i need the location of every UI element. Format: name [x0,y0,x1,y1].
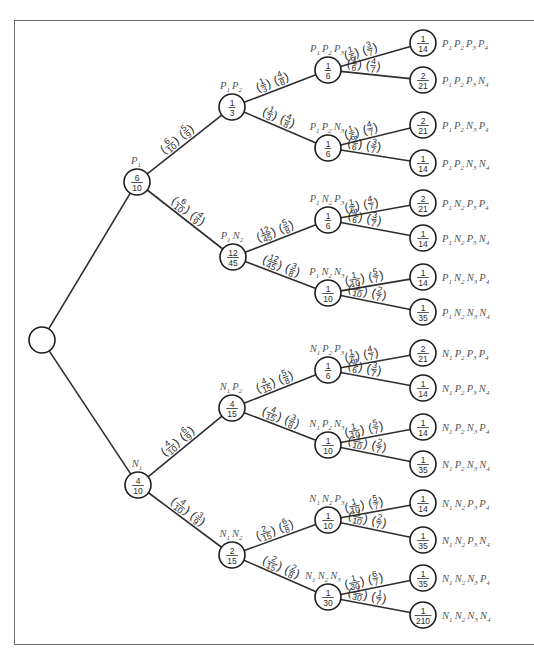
node-P1N2: 1245P1 N2 [220,230,246,270]
svg-text:): ) [378,494,384,508]
node-P1P2N3P4: 221P1 P2 N3 P4 [410,112,491,138]
svg-text:1: 1 [326,139,331,149]
node-label: P1 P2 N3 P4 [441,120,491,134]
node-label: P1 P2 N3 N4 [441,158,491,172]
svg-text:2: 2 [421,71,426,81]
svg-text:6: 6 [351,142,358,153]
svg-text:4: 4 [136,476,141,486]
node-N1N2N3P4: 135N1 N2 N3 P4 [410,565,492,591]
node-label: N1 P2 P3 P4 [441,348,491,362]
edge-probability-label: (610)(49) [168,191,210,230]
svg-text:21: 21 [418,204,428,214]
svg-text:): ) [275,409,284,424]
node-N1N2N3: 130N1 N2 N3 [304,570,343,610]
node-P1N2P3N4: 114P1 N2 P3 N4 [410,225,491,251]
node-N1N2P3P4: 114N1 N2 P3 P4 [410,490,491,516]
svg-text:10: 10 [352,440,363,452]
svg-text:30: 30 [351,592,362,604]
svg-text:1: 1 [326,361,331,371]
node-N1P2P3P4: 221N1 P2 P3 P4 [410,340,491,366]
node-N1P2P3N4: 114N1 P2 P3 N4 [410,375,491,401]
fraction: 1245 [227,248,239,268]
edge-probability-label: (610)(59) [156,119,198,158]
edge-probability-label: (1245)(38) [260,250,303,281]
svg-text:1: 1 [230,98,235,108]
svg-text:10: 10 [323,294,333,304]
svg-text:7: 7 [370,218,377,229]
svg-text:10: 10 [352,288,363,300]
svg-text:1: 1 [326,588,331,598]
node-label: P1 N2 N3 N4 [441,307,492,321]
svg-text:): ) [357,137,363,151]
node-label: N1 N2 P3 [308,493,346,507]
svg-text:7: 7 [370,145,377,156]
svg-text:1: 1 [421,34,426,44]
edge-probability-label: (215)(28) [260,550,303,583]
node-label: P1 N2 N3 [308,266,346,280]
svg-text:): ) [376,59,381,73]
edge-probability-label: (415)(38) [259,401,302,432]
node-P1N2N3P4: 114P1 N2 N3 P4 [410,264,491,290]
svg-text:2: 2 [421,194,426,204]
node-label: P1 [130,155,143,169]
svg-text:1: 1 [421,606,426,616]
node-N1N2N3N4: 1210N1 N2 N3 N4 [410,602,493,628]
svg-text:1: 1 [421,418,426,428]
node-label: N1 N2 N3 [304,570,343,584]
svg-text:15: 15 [227,409,237,419]
svg-text:10: 10 [132,183,142,193]
node-label: P1 N2 N3 P4 [441,272,491,286]
svg-text:35: 35 [418,313,428,323]
svg-text:14: 14 [418,44,428,54]
node-label: P1 N2 P3 P4 [441,198,491,212]
node-label: P1 P2 P3 [309,43,346,57]
node-label: N1 N2 P3 P4 [441,498,491,512]
node-label: P1 P2 [219,80,244,94]
svg-text:1: 1 [421,268,426,278]
svg-text:210: 210 [416,616,430,626]
node-label: P1 N2 P3 [309,193,347,207]
fraction: 16 [325,361,332,381]
fraction: 16 [325,61,332,81]
node-label: P1 P2 P3 N4 [441,75,491,89]
svg-text:6: 6 [135,173,140,183]
node-P1N2P3P4: 221P1 N2 P3 P4 [410,190,491,216]
svg-text:14: 14 [418,428,428,438]
node-P1N2P3: 16P1 N2 P3 [309,193,347,233]
svg-text:12: 12 [228,248,238,258]
edge-P1P2-P1P2N3 [244,112,316,143]
svg-text:6: 6 [326,371,331,381]
svg-text:10: 10 [323,521,333,531]
node-label: N1 P2 P3 N4 [441,383,491,397]
edge-root-N1 [49,351,131,474]
node-label: P1 N2 [220,230,246,244]
svg-text:14: 14 [418,239,428,249]
node-P1P2P3: 16P1 P2 P3 [309,43,346,83]
svg-text:7: 7 [370,368,377,379]
svg-text:35: 35 [418,541,428,551]
node-N1P2P3: 16N1 P2 P3 [309,343,347,383]
svg-text:1: 1 [421,569,426,579]
node-N1N2P3N4: 135N1 N2 P3 N4 [410,527,492,553]
svg-text:1: 1 [421,229,426,239]
svg-text:14: 14 [418,278,428,288]
svg-text:7: 7 [375,520,382,531]
node-label: N1 P2 P3 [309,343,347,357]
node-P1P2: 13P1 P2 [219,80,245,120]
svg-text:2: 2 [230,546,235,556]
fraction: 13 [229,98,236,118]
node-root [29,327,55,353]
node-label: N1 N2 P3 N4 [441,535,492,549]
svg-text:1: 1 [326,211,331,221]
svg-text:6: 6 [351,365,358,376]
svg-text:): ) [378,268,384,282]
svg-text:10: 10 [352,515,364,527]
svg-text:1: 1 [421,531,426,541]
svg-text:): ) [357,57,362,71]
svg-text:21: 21 [418,81,428,91]
svg-text:): ) [376,140,382,154]
svg-text:30: 30 [323,598,333,608]
svg-text:6: 6 [326,149,331,159]
node-label: N1 [131,458,145,472]
